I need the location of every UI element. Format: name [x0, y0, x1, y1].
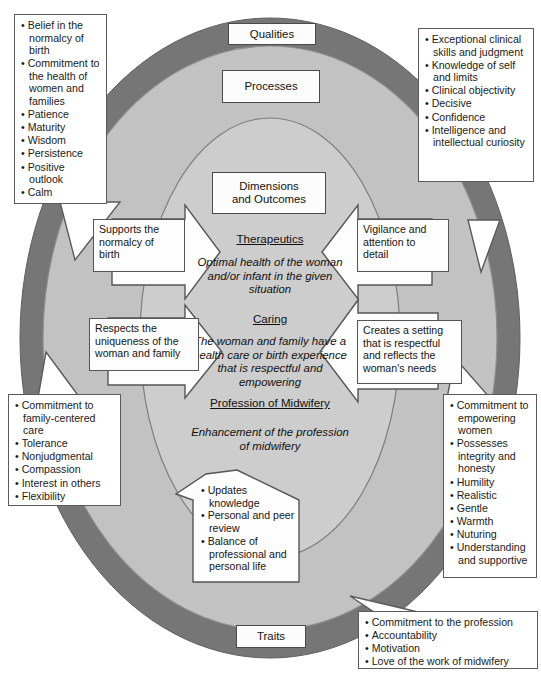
list-item: Nonjudgmental [15, 450, 115, 463]
arrow-label-supports-normalcy: Supports the normalcy of birth [93, 219, 185, 272]
updates-knowledge-list: Updates knowledge Personal and peer revi… [201, 484, 295, 573]
callout-traits-bottom-center-right: Commitment to the profession Accountabil… [358, 611, 538, 669]
supports-normalcy-line1: Supports the [99, 223, 180, 236]
diagram-canvas: Qualities Processes Dimensions and Outco… [0, 0, 541, 676]
callout-qualities-top-right: Exceptional clinical skills and judgment… [418, 28, 534, 182]
callout-list-bottom-center-right: Commitment to the profession Accountabil… [359, 612, 537, 672]
list-item: Interest in others [15, 477, 115, 490]
list-item: Motivation [365, 642, 532, 655]
list-item: Warmth [450, 515, 531, 528]
list-item: Balance of professional and personal lif… [201, 535, 295, 573]
core-caring-line4: empowering [160, 376, 380, 390]
supports-normalcy-line3: birth [99, 248, 180, 261]
list-item: Maturity [21, 121, 101, 134]
list-item: Realistic [450, 489, 531, 502]
creates-setting-line3: and reflects the [363, 349, 457, 362]
creates-setting-line1: Creates a setting [363, 324, 457, 337]
core-therapeutics-line1: Optimal health of the woman [160, 256, 380, 270]
callout-list-bottom-left: Commitment to family-centered care Toler… [9, 395, 120, 507]
ring-label-processes: Processes [222, 70, 320, 103]
list-item: Patience [21, 108, 101, 121]
arrow-label-creates-setting: Creates a setting that is respectful and… [357, 320, 462, 384]
supports-normalcy-line2: normalcy of [99, 236, 180, 249]
list-item: Love of the work of midwifery [365, 655, 532, 668]
list-item: Commitment to empowering women [450, 399, 531, 437]
list-item: Accountability [365, 629, 532, 642]
list-item: Exceptional clinical skills and judgment [425, 33, 528, 58]
list-item: Commitment to family-centered care [15, 399, 115, 437]
list-item: Commitment to the health of women and fa… [21, 57, 101, 107]
vigilance-line3: detail [363, 248, 444, 261]
list-item: Tolerance [15, 437, 115, 450]
list-item: Decisive [425, 97, 528, 110]
list-item: Persistence [21, 147, 101, 160]
respects-uniqueness-line3: woman and family [95, 347, 194, 360]
vigilance-line1: Vigilance and [363, 223, 444, 236]
arrow-label-respects-uniqueness: Respects the uniqueness of the woman and… [89, 318, 199, 371]
creates-setting-line4: woman's needs [363, 362, 457, 375]
list-item: Flexibility [15, 490, 115, 503]
callout-list-top-left: Belief in the normalcy of birth Commitme… [15, 15, 106, 203]
respects-uniqueness-line1: Respects the [95, 322, 194, 335]
list-item: Intelligence and intellectual curiosity [425, 124, 528, 149]
callout-qualities-top-left: Belief in the normalcy of birth Commitme… [14, 14, 107, 204]
core-therapeutics-heading: Therapeutics [160, 232, 380, 246]
callout-list-top-right: Exceptional clinical skills and judgment… [419, 29, 533, 153]
core-therapeutics: Therapeutics Optimal health of the woman… [160, 232, 380, 297]
core-profession-line2: of midwifery [160, 440, 380, 454]
list-item: Clinical objectivity [425, 84, 528, 97]
ring-label-traits: Traits [236, 625, 306, 648]
list-item: Compassion [15, 463, 115, 476]
list-item: Calm [21, 186, 101, 199]
creates-setting-line2: that is respectful [363, 337, 457, 350]
callout-traits-bottom-left: Commitment to family-centered care Toler… [8, 394, 121, 506]
vigilance-line2: attention to [363, 236, 444, 249]
list-item: Knowledge of self and limits [425, 59, 528, 84]
callout-list-bottom-right: Commitment to empowering women Possesses… [444, 395, 536, 571]
ring-label-qualities: Qualities [228, 23, 316, 45]
list-item: Humility [450, 476, 531, 489]
list-item: Updates knowledge [201, 484, 295, 509]
ring-label-dimensions-and-outcomes: Dimensions and Outcomes [212, 172, 326, 214]
list-item: Wisdom [21, 134, 101, 147]
core-profession: Profession of Midwifery Enhancement of t… [160, 396, 380, 453]
list-item: Gentle [450, 502, 531, 515]
list-item: Possesses integrity and honesty [450, 437, 531, 475]
list-item: Belief in the normalcy of birth [21, 19, 101, 57]
core-therapeutics-line2: and/or infant in the given [160, 270, 380, 284]
core-profession-heading: Profession of Midwifery [160, 396, 380, 410]
arrow-label-vigilance-attention: Vigilance and attention to detail [357, 219, 449, 272]
list-item: Positive outlook [21, 161, 101, 186]
core-therapeutics-line3: situation [160, 283, 380, 297]
list-item: Personal and peer review [201, 509, 295, 534]
core-profession-line1: Enhancement of the profession [160, 426, 380, 440]
respects-uniqueness-line2: uniqueness of the [95, 335, 194, 348]
list-item: Nuturing [450, 528, 531, 541]
callout-traits-bottom-right: Commitment to empowering women Possesses… [443, 394, 537, 578]
list-item: Confidence [425, 111, 528, 124]
arrow-label-updates-knowledge: Updates knowledge Personal and peer revi… [193, 479, 299, 582]
list-item: Commitment to the profession [365, 616, 532, 629]
list-item: Understanding and supportive [450, 541, 531, 566]
